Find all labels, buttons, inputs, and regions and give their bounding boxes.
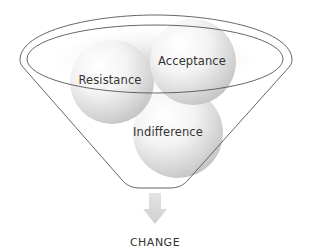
acceptance-label: Acceptance <box>158 54 226 68</box>
resistance-label: Resistance <box>79 73 142 87</box>
down-arrow-icon <box>143 193 167 224</box>
indifference-label: Indifference <box>133 125 203 139</box>
funnel-diagram: Resistance Acceptance Indifference CHANG… <box>0 0 309 252</box>
change-label: CHANGE <box>130 236 180 249</box>
